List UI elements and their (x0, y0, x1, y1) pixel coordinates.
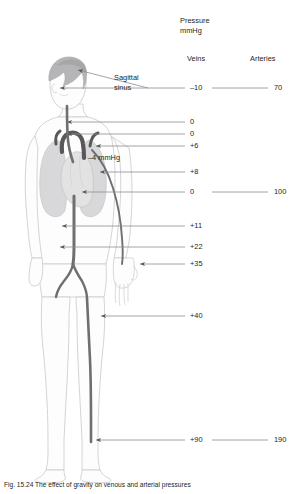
sagittal-sinus-label-line2: sinus (114, 83, 131, 93)
vein-pressure-sagittal-sinus: –10 (190, 83, 202, 92)
vein-pressure-neck-lower: 0 (190, 129, 194, 138)
vein-pressure-heart-level: 0 (190, 187, 194, 196)
artery-pressure-ankle: 190 (274, 435, 286, 444)
artery-pressure-sagittal-sinus: 70 (274, 83, 282, 92)
vein-pressure-ankle: +90 (190, 435, 203, 444)
vein-pressure-thigh-vein: +40 (190, 311, 203, 320)
sagittal-sinus-label-line1: Sagittal (114, 73, 139, 83)
figure-caption: Fig. 15.24 The effect of gravity on veno… (4, 481, 304, 489)
intrathoracic-pressure-label: –4 mmHg (88, 153, 120, 163)
vein-pressure-right-atrium-upper: +8 (190, 167, 198, 176)
vein-pressure-iliac-vein: +22 (190, 242, 203, 251)
column-header-veins: Veins (187, 54, 205, 64)
head (49, 57, 87, 109)
pressure-gradient-figure (0, 0, 306, 494)
pressure-title-line1: Pressure (180, 16, 210, 26)
artery-pressure-heart-level: 100 (274, 187, 286, 196)
vein-pressure-hand-wrist: +35 (190, 259, 203, 268)
right-hand (113, 258, 137, 306)
pressure-title-line2: mmHg (180, 26, 202, 36)
vein-pressure-neck-upper: 0 (190, 117, 194, 126)
vein-pressure-abdominal-vena-cava: +11 (190, 221, 202, 230)
column-header-arteries: Arteries (250, 54, 275, 64)
vein-pressure-aortic-arch: +6 (190, 141, 198, 150)
